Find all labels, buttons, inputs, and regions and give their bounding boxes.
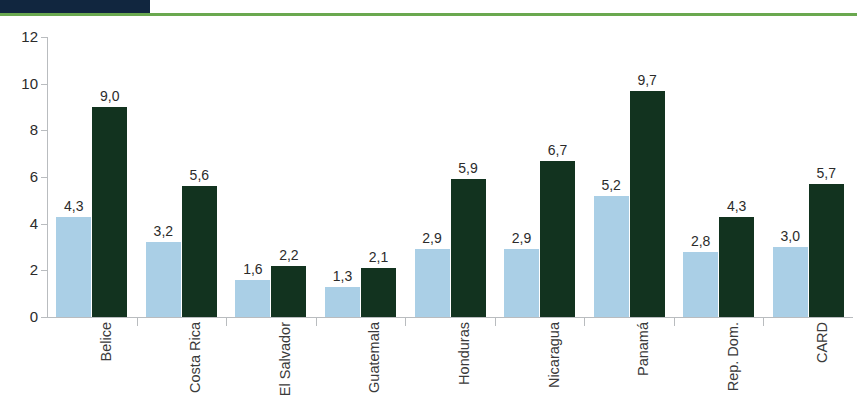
- bar[interactable]: [630, 91, 665, 317]
- y-tick-label: 4: [4, 216, 38, 231]
- bar-group: 4,39,0: [56, 36, 127, 317]
- y-tick-label: 12: [4, 29, 38, 44]
- bar-chart: 024681012 4,39,03,25,61,62,21,32,12,95,9…: [0, 16, 857, 404]
- bar-value-label: 4,3: [64, 199, 83, 213]
- bar-group-bars: 4,39,0: [56, 36, 127, 317]
- bar[interactable]: [683, 252, 718, 317]
- bar-value-label: 2,1: [369, 250, 388, 264]
- bar-value-label: 3,2: [154, 224, 173, 238]
- y-tick-label: 8: [4, 122, 38, 137]
- header-dark-block: [0, 0, 150, 13]
- bar[interactable]: [146, 242, 181, 317]
- x-category-label: Panamá: [636, 322, 651, 376]
- bar-value-label: 9,7: [637, 73, 656, 87]
- bar-group-bars: 2,84,3: [683, 36, 754, 317]
- x-tick: [674, 318, 675, 326]
- bar[interactable]: [325, 287, 360, 317]
- x-category-label: CARD: [815, 322, 830, 363]
- bar-value-label: 5,6: [190, 168, 209, 182]
- x-tick: [137, 318, 138, 326]
- bar-group-bars: 1,32,1: [325, 36, 396, 317]
- bar[interactable]: [271, 266, 306, 317]
- y-tick: [41, 270, 47, 271]
- x-tick: [226, 318, 227, 326]
- bar-value-label: 5,7: [816, 166, 835, 180]
- x-category-label: Nicaragua: [547, 322, 562, 388]
- x-tick: [584, 318, 585, 326]
- bar-group: 2,84,3: [683, 36, 754, 317]
- bar-group: 3,25,6: [146, 36, 217, 317]
- header-clipped-title: [155, 0, 845, 3]
- y-axis-line: [47, 37, 48, 317]
- bar-group: 2,96,7: [504, 36, 575, 317]
- bar-group: 3,05,7: [773, 36, 844, 317]
- bar-group: 5,29,7: [594, 36, 665, 317]
- y-tick-label-wrap: 0: [0, 309, 38, 325]
- bar-value-label: 6,7: [548, 143, 567, 157]
- y-tick-label-wrap: 4: [0, 216, 38, 232]
- x-tick: [316, 318, 317, 326]
- bar-group: 2,95,9: [415, 36, 486, 317]
- y-tick: [41, 224, 47, 225]
- bar[interactable]: [92, 107, 127, 317]
- bar[interactable]: [594, 196, 629, 317]
- x-category-label: Honduras: [457, 322, 472, 385]
- y-tick: [41, 130, 47, 131]
- bar-group-bars: 3,25,6: [146, 36, 217, 317]
- bar-value-label: 3,0: [780, 229, 799, 243]
- bar-value-label: 2,2: [279, 248, 298, 262]
- bar-group-bars: 2,95,9: [415, 36, 486, 317]
- y-tick-label-wrap: 10: [0, 76, 38, 92]
- y-tick-label: 0: [4, 309, 38, 324]
- bar-value-label: 5,9: [458, 161, 477, 175]
- bar-group-bars: 3,05,7: [773, 36, 844, 317]
- bar[interactable]: [415, 249, 450, 317]
- bar-value-label: 4,3: [727, 199, 746, 213]
- bar-group: 1,32,1: [325, 36, 396, 317]
- bar[interactable]: [719, 217, 754, 317]
- y-tick-label-wrap: 8: [0, 122, 38, 138]
- bar-value-label: 1,3: [333, 269, 352, 283]
- x-category-label: El Salvador: [278, 322, 293, 396]
- bar[interactable]: [540, 161, 575, 317]
- bar-value-label: 9,0: [100, 89, 119, 103]
- y-tick: [41, 317, 47, 318]
- y-tick-label: 6: [4, 169, 38, 184]
- x-category-label: Rep. Dom.: [726, 322, 741, 391]
- bar-group-bars: 5,29,7: [594, 36, 665, 317]
- bar-group-bars: 2,96,7: [504, 36, 575, 317]
- bar-value-label: 2,9: [512, 231, 531, 245]
- bar[interactable]: [773, 247, 808, 317]
- x-tick: [405, 318, 406, 326]
- bar[interactable]: [451, 179, 486, 317]
- bar-value-label: 2,8: [691, 234, 710, 248]
- x-category-label: Guatemala: [367, 322, 382, 393]
- bar[interactable]: [809, 184, 844, 317]
- y-tick-label-wrap: 12: [0, 29, 38, 45]
- y-tick: [41, 84, 47, 85]
- bar[interactable]: [56, 217, 91, 317]
- y-tick-label: 10: [4, 76, 38, 91]
- bar-value-label: 5,2: [601, 178, 620, 192]
- x-tick: [495, 318, 496, 326]
- bar-group-bars: 1,62,2: [235, 36, 306, 317]
- bar[interactable]: [504, 249, 539, 317]
- y-tick-label: 2: [4, 262, 38, 277]
- bar[interactable]: [235, 280, 270, 317]
- y-tick-label-wrap: 6: [0, 169, 38, 185]
- x-category-label: Costa Rica: [188, 322, 203, 393]
- bar[interactable]: [182, 186, 217, 317]
- x-axis-line: [47, 317, 853, 318]
- bar-group: 1,62,2: [235, 36, 306, 317]
- y-tick: [41, 37, 47, 38]
- bar-value-label: 1,6: [243, 262, 262, 276]
- x-category-label: Belice: [99, 322, 114, 362]
- bar-value-label: 2,9: [422, 231, 441, 245]
- y-tick: [41, 177, 47, 178]
- x-tick: [763, 318, 764, 326]
- y-tick-label-wrap: 2: [0, 262, 38, 278]
- bar[interactable]: [361, 268, 396, 317]
- header-strip: [0, 0, 857, 16]
